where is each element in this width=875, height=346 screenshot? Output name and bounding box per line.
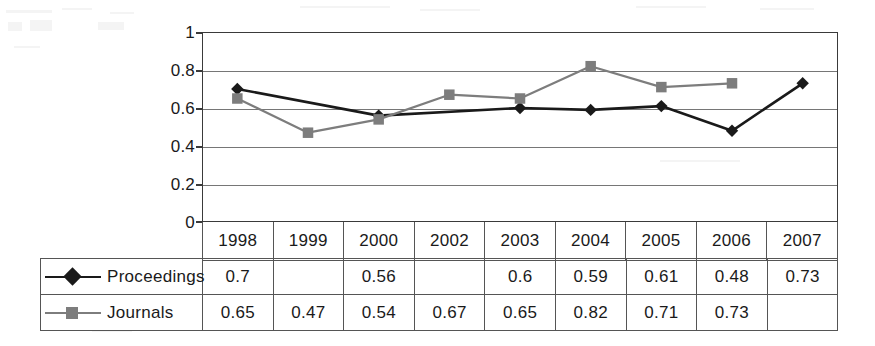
scan-artifact xyxy=(62,8,92,10)
scan-artifact xyxy=(14,46,40,48)
data-point-marker-square xyxy=(232,93,243,104)
data-point-marker-diamond xyxy=(655,100,667,112)
value-proceedings-2002 xyxy=(414,259,485,295)
value-journals-1998: 0.65 xyxy=(203,295,274,331)
year-cell-2007: 2007 xyxy=(767,222,838,261)
scan-artifact xyxy=(420,9,480,11)
data-value-table: Proceedings 0.7 0.56 0.6 0.59 0.61 0.48 … xyxy=(40,258,838,331)
series-line-journals xyxy=(237,66,732,133)
scan-artifact xyxy=(300,6,390,8)
y-tick-label-0.6: 0.6 xyxy=(149,100,195,117)
scan-artifact xyxy=(110,12,134,14)
scan-artifact xyxy=(30,20,52,31)
value-proceedings-2005: 0.61 xyxy=(626,259,697,295)
year-cell-2004: 2004 xyxy=(555,222,626,261)
y-tick-label-0.2: 0.2 xyxy=(149,176,195,193)
table-row-journals: Journals 0.65 0.47 0.54 0.67 0.65 0.82 0… xyxy=(41,295,838,331)
legend-cell-proceedings: Proceedings xyxy=(41,259,203,295)
y-tick-label-0.8: 0.8 xyxy=(149,62,195,79)
value-proceedings-2003: 0.6 xyxy=(485,259,556,295)
value-journals-2000: 0.54 xyxy=(344,295,415,331)
series-layer xyxy=(202,32,838,222)
value-journals-2002: 0.67 xyxy=(414,295,485,331)
year-cell-2000: 2000 xyxy=(344,222,415,261)
square-marker-icon xyxy=(45,306,101,320)
value-journals-2007 xyxy=(767,295,838,331)
data-point-marker-diamond xyxy=(584,104,596,116)
line-chart-with-data-table: 1 0.8 0.6 0.4 0.2 0 1998 1999 2000 2002 … xyxy=(0,0,875,346)
scan-artifact xyxy=(98,22,124,30)
value-proceedings-2000: 0.56 xyxy=(344,259,415,295)
data-point-marker-square xyxy=(515,93,526,104)
table-row-proceedings: Proceedings 0.7 0.56 0.6 0.59 0.61 0.48 … xyxy=(41,259,838,295)
data-point-marker-square xyxy=(727,78,738,89)
year-cell-1999: 1999 xyxy=(273,222,344,261)
scan-artifact xyxy=(6,10,52,13)
scan-artifact xyxy=(760,8,814,10)
value-proceedings-2007: 0.73 xyxy=(767,259,838,295)
y-tick-label-1: 1 xyxy=(149,24,195,41)
value-journals-2004: 0.82 xyxy=(555,295,626,331)
value-proceedings-2006: 0.48 xyxy=(697,259,768,295)
data-point-marker-square xyxy=(303,127,314,138)
year-header-row: 1998 1999 2000 2002 2003 2004 2005 2006 … xyxy=(202,222,838,261)
value-journals-2006: 0.73 xyxy=(697,295,768,331)
y-tick-label-0: 0 xyxy=(149,214,195,231)
value-journals-1999: 0.47 xyxy=(273,295,344,331)
value-proceedings-1998: 0.7 xyxy=(203,259,274,295)
scan-artifact xyxy=(8,22,22,31)
year-cell-2005: 2005 xyxy=(626,222,697,261)
legend-label-journals: Journals xyxy=(101,303,174,323)
data-point-marker-square xyxy=(444,89,455,100)
year-cell-2006: 2006 xyxy=(696,222,767,261)
value-proceedings-1999 xyxy=(273,259,344,295)
data-point-marker-square xyxy=(373,114,384,125)
value-journals-2005: 0.71 xyxy=(626,295,697,331)
value-journals-2003: 0.65 xyxy=(485,295,556,331)
table-row-years: 1998 1999 2000 2002 2003 2004 2005 2006 … xyxy=(203,222,838,261)
value-proceedings-2004: 0.59 xyxy=(555,259,626,295)
data-point-marker-square xyxy=(585,61,596,71)
diamond-marker-icon xyxy=(45,270,101,284)
year-cell-2003: 2003 xyxy=(485,222,556,261)
year-cell-1998: 1998 xyxy=(203,222,274,261)
y-tick-label-0.4: 0.4 xyxy=(149,138,195,155)
scan-artifact xyxy=(636,6,706,8)
legend-label-proceedings: Proceedings xyxy=(101,267,205,287)
year-cell-2002: 2002 xyxy=(414,222,485,261)
data-point-marker-square xyxy=(656,82,667,93)
legend-cell-journals: Journals xyxy=(41,295,203,331)
